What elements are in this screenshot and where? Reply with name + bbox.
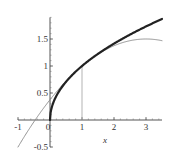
plot-area: -10123-0.50.511.5 x [0,0,173,153]
x-axis-label: x [102,135,107,145]
x-tick-label: 2 [112,122,117,132]
tick-labels: -10123-0.50.511.5 [14,34,149,152]
y-tick-label: 0.5 [37,88,49,98]
x-tick-label: -1 [14,122,22,132]
y-tick-label: 1 [44,61,49,71]
y-tick-label: -0.5 [34,142,49,152]
y-tick-label: 1.5 [37,34,49,44]
x-tick-label: 1 [80,122,85,132]
sqrt-curve [50,19,162,120]
x-tick-label: 3 [144,122,149,132]
x-tick-label: 0 [46,122,51,132]
